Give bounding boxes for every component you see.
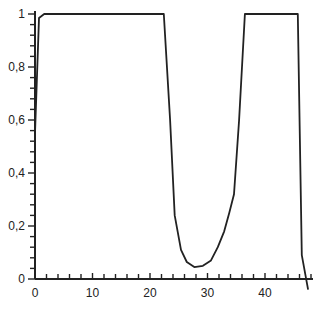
x-tick-label: 20 [143, 286, 157, 300]
x-tick-label: 0 [32, 286, 39, 300]
series-line [35, 14, 308, 290]
y-tick-label: 1 [18, 7, 25, 21]
x-tick-label: 10 [86, 286, 100, 300]
y-tick-label: 0,4 [8, 166, 25, 180]
x-tick-label: 40 [258, 286, 272, 300]
tick-marks [28, 14, 311, 279]
x-tick-label: 30 [201, 286, 215, 300]
data-series [35, 14, 308, 290]
line-chart: 00,20,40,60,81010203040 [0, 0, 323, 310]
y-tick-label: 0,6 [8, 113, 25, 127]
y-tick-label: 0,8 [8, 60, 25, 74]
tick-labels: 00,20,40,60,81010203040 [8, 7, 272, 300]
y-tick-label: 0 [18, 272, 25, 286]
axes [35, 11, 313, 279]
y-tick-label: 0,2 [8, 219, 25, 233]
